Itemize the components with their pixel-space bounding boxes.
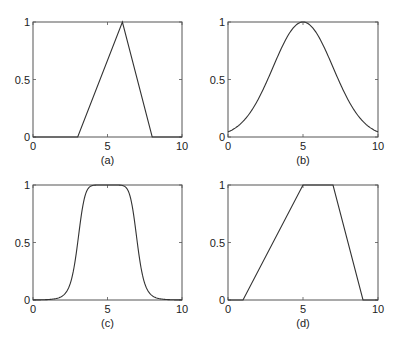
- subplot-caption: (d): [296, 317, 309, 329]
- subplot-b: 051000.51(b): [210, 16, 384, 166]
- y-tick-label: 0: [24, 131, 30, 143]
- x-tick-label: 0: [225, 303, 231, 315]
- y-tick-label: 0: [219, 294, 225, 306]
- y-tick-label: 1: [24, 179, 30, 191]
- x-tick-label: 10: [176, 303, 188, 315]
- subplot-d: 051000.51(d): [210, 179, 384, 329]
- y-tick-label: 1: [219, 16, 225, 28]
- membership-curve: [228, 22, 378, 132]
- x-tick-label: 10: [176, 140, 188, 152]
- axes-frame: [228, 22, 378, 137]
- x-tick-label: 0: [225, 140, 231, 152]
- x-tick-label: 5: [104, 303, 110, 315]
- y-tick-label: 0: [219, 131, 225, 143]
- axes-frame: [228, 185, 378, 300]
- y-tick-label: 0: [24, 294, 30, 306]
- x-tick-label: 5: [300, 140, 306, 152]
- x-tick-label: 0: [30, 303, 36, 315]
- subplot-c: 051000.51(c): [15, 179, 188, 329]
- subplot-caption: (c): [101, 317, 114, 329]
- x-tick-label: 0: [30, 140, 36, 152]
- x-tick-label: 5: [104, 140, 110, 152]
- membership-curve: [33, 22, 182, 137]
- subplot-caption: (b): [296, 154, 309, 166]
- membership-curve: [33, 185, 182, 300]
- y-tick-label: 1: [219, 179, 225, 191]
- y-tick-label: 0.5: [210, 237, 225, 249]
- figure: 051000.51(a) 051000.51(b) 051000.51(c) 0…: [0, 0, 397, 341]
- y-tick-label: 0.5: [15, 74, 30, 86]
- axes-frame: [33, 185, 182, 300]
- x-tick-label: 10: [372, 303, 384, 315]
- x-tick-label: 10: [372, 140, 384, 152]
- x-tick-label: 5: [300, 303, 306, 315]
- y-tick-label: 0.5: [15, 237, 30, 249]
- axes-frame: [33, 22, 182, 137]
- membership-curve: [228, 185, 378, 300]
- y-tick-label: 0.5: [210, 74, 225, 86]
- y-tick-label: 1: [24, 16, 30, 28]
- subplot-caption: (a): [101, 154, 114, 166]
- subplot-a: 051000.51(a): [15, 16, 188, 166]
